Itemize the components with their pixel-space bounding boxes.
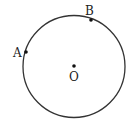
point-b xyxy=(89,18,93,22)
center-point-o xyxy=(72,64,76,68)
label-a: A xyxy=(12,46,22,60)
label-o: O xyxy=(69,70,79,84)
point-a xyxy=(24,50,28,54)
label-b: B xyxy=(85,4,94,18)
circle-diagram: A B O xyxy=(0,0,133,121)
